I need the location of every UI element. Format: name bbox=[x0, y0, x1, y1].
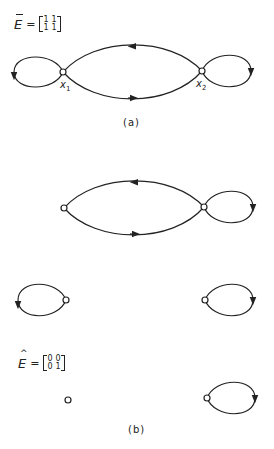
node-x2 bbox=[199, 68, 205, 74]
node-x1 bbox=[60, 69, 66, 75]
matrix-symbol: ^ E bbox=[18, 356, 26, 371]
matrix-symbol: E bbox=[14, 17, 22, 32]
bar-accent bbox=[16, 14, 23, 16]
matrix-bracket: 0 0 0 1 bbox=[43, 355, 64, 371]
part-b-graph-3 bbox=[65, 382, 255, 414]
caption-a: (a) bbox=[123, 117, 140, 128]
graph-figure: E = 1 1 1 1 x1 x2 (a) ^ E = 0 0 0 bbox=[0, 0, 274, 449]
node-label-x1: x1 bbox=[60, 79, 70, 93]
part-b-graph-2 bbox=[18, 284, 253, 316]
matrix-bracket: 1 1 1 1 bbox=[39, 16, 60, 32]
matrix-e-bar: E = 1 1 1 1 bbox=[14, 16, 61, 32]
graph-drawing bbox=[0, 0, 274, 449]
self-loop-x1 bbox=[14, 57, 63, 87]
caption-b: (b) bbox=[128, 424, 145, 435]
arc-x1-to-x2 bbox=[63, 71, 202, 99]
part-b-graph-1 bbox=[61, 181, 253, 235]
arc-x2-to-x1 bbox=[63, 45, 202, 72]
node-label-x2: x2 bbox=[196, 78, 206, 92]
isolated-node bbox=[65, 397, 71, 403]
matrix-e-hat: ^ E = 0 0 0 1 bbox=[18, 355, 65, 371]
hat-accent: ^ bbox=[20, 348, 28, 358]
part-a-graph bbox=[14, 45, 251, 99]
self-loop-x2 bbox=[202, 55, 251, 87]
